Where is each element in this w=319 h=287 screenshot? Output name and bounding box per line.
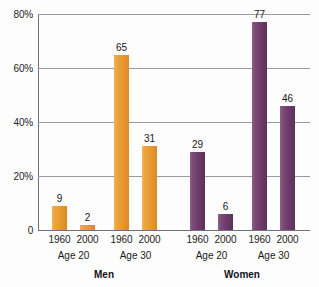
bar-women-age30-1960[interactable]: 77 [252,22,267,230]
bar-value-label: 29 [192,139,203,150]
x-label-women-age30-2000: 2000 [276,234,298,245]
y-tick-label-60: 60% [14,63,33,74]
x-label-men-age30-1960: 1960 [110,234,132,245]
age-group-label-women-age20: Age 20 [196,250,228,261]
gridline-60: 60% [38,68,310,69]
gridline-0: 0 [38,230,310,231]
series-label-women: Women [224,269,260,280]
bar-value-label: 2 [85,212,91,223]
gridline-20: 20% [38,176,310,177]
bar-value-label: 77 [254,9,265,20]
y-tick-label-20: 20% [14,171,33,182]
y-tick-label-40: 40% [14,117,33,128]
bar-men-age20-2000[interactable]: 2 [80,225,95,230]
gridline-80: 80% [38,14,310,15]
x-label-men-age30-2000: 2000 [138,234,160,245]
bar-women-age20-2000[interactable]: 6 [218,214,233,230]
bar-value-label: 46 [282,93,293,104]
bar-men-age30-1960[interactable]: 65 [114,55,129,231]
age-group-label-men-age20: Age 20 [58,250,90,261]
bar-women-age20-1960[interactable]: 29 [190,152,205,230]
x-label-women-age20-1960: 1960 [186,234,208,245]
bar-chart: 80% 60% 40% 20% 0 9 2 65 31 29 [0,0,319,287]
bar-value-label: 9 [57,193,63,204]
x-label-women-age30-1960: 1960 [248,234,270,245]
plot-area: 80% 60% 40% 20% 0 9 2 65 31 29 [38,14,310,230]
x-label-men-age20-1960: 1960 [48,234,70,245]
y-tick-label-80: 80% [14,9,33,20]
y-tick-label-0: 0 [28,225,33,236]
age-group-label-men-age30: Age 30 [120,250,152,261]
age-group-label-women-age30: Age 30 [258,250,290,261]
bar-value-label: 65 [116,42,127,53]
x-label-men-age20-2000: 2000 [76,234,98,245]
bar-women-age30-2000[interactable]: 46 [280,106,295,230]
bar-value-label: 6 [223,201,229,212]
gridline-40: 40% [38,122,310,123]
x-label-women-age20-2000: 2000 [214,234,236,245]
series-label-men: Men [94,269,114,280]
bar-men-age20-1960[interactable]: 9 [52,206,67,230]
bar-men-age30-2000[interactable]: 31 [142,146,157,230]
bar-value-label: 31 [144,133,155,144]
